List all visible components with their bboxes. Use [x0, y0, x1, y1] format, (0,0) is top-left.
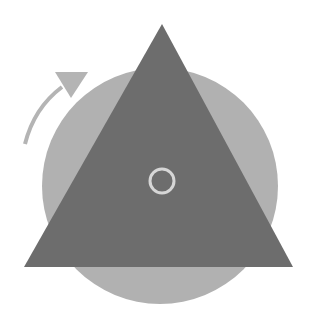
rotation-diagram	[0, 0, 316, 318]
diagram-canvas	[0, 0, 316, 318]
arrow-head-icon	[55, 72, 88, 98]
